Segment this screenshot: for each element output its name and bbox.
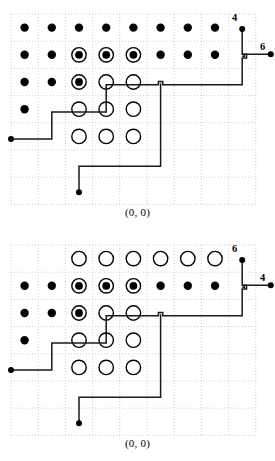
bottom-endpoint (76, 189, 82, 195)
vertical-endpoint (239, 26, 245, 32)
marker-filled (184, 51, 192, 59)
marker-filled (20, 282, 28, 290)
marker-filled (75, 23, 83, 31)
marker-open (72, 360, 86, 374)
marker-open (72, 333, 86, 347)
marker-filled (211, 51, 219, 59)
marker-filled (48, 78, 56, 86)
horizontal-endpoint (268, 51, 274, 57)
lattice-board-bottom (0, 231, 275, 436)
marker-filled (20, 105, 28, 113)
left-endpoint (8, 367, 14, 373)
marker-filled (211, 23, 219, 31)
marker-ring-core (130, 282, 138, 290)
marker-filled (156, 23, 164, 31)
vertical-endpoint (239, 257, 245, 263)
marker-open (181, 251, 195, 265)
marker-open (72, 251, 86, 265)
marker-open (208, 251, 222, 265)
vertical-endpoint-label: 4 (232, 12, 237, 23)
marker-filled (184, 23, 192, 31)
marker-open (126, 306, 140, 320)
marker-filled (48, 23, 56, 31)
marker-filled (20, 309, 28, 317)
marker-ring-core (75, 78, 83, 86)
horizontal-endpoint-label: 4 (260, 272, 265, 283)
marker-open (72, 129, 86, 143)
marker-ring-core (75, 309, 83, 317)
horizontal-endpoint-label: 6 (260, 41, 265, 52)
marker-open (126, 102, 140, 116)
diagram-panel-top: (0, 0) 46 (0, 0, 275, 230)
lattice-board-top (0, 0, 275, 205)
marker-open (126, 251, 140, 265)
marker-filled (20, 336, 28, 344)
bottom-endpoint (76, 420, 82, 426)
marker-filled (20, 78, 28, 86)
marker-filled (211, 282, 219, 290)
diagram-panel-bottom: (0, 0) 64 (0, 231, 275, 461)
marker-filled (20, 51, 28, 59)
marker-open (72, 102, 86, 116)
horizontal-endpoint (268, 282, 274, 288)
marker-open (99, 129, 113, 143)
marker-filled (156, 282, 164, 290)
marker-ring-core (130, 51, 138, 59)
origin-caption-top: (0, 0) (0, 206, 275, 218)
figure-page: (0, 0) 46 (0, 0) 64 (0, 0, 275, 461)
marker-open (126, 333, 140, 347)
marker-ring-core (75, 282, 83, 290)
marker-ring-core (102, 282, 110, 290)
marker-filled (48, 51, 56, 59)
marker-open (153, 251, 167, 265)
marker-open (99, 360, 113, 374)
marker-filled (129, 23, 137, 31)
marker-open (126, 129, 140, 143)
marker-filled (48, 309, 56, 317)
origin-caption-bottom: (0, 0) (0, 437, 275, 449)
marker-filled (102, 23, 110, 31)
left-endpoint (8, 136, 14, 142)
marker-ring-core (102, 51, 110, 59)
marker-filled (156, 51, 164, 59)
marker-open (126, 360, 140, 374)
marker-filled (20, 23, 28, 31)
marker-filled (48, 282, 56, 290)
marker-open (99, 251, 113, 265)
vertical-endpoint-label: 6 (232, 243, 237, 254)
marker-ring-core (75, 51, 83, 59)
marker-layer (20, 251, 222, 374)
marker-filled (184, 282, 192, 290)
marker-open (126, 75, 140, 89)
